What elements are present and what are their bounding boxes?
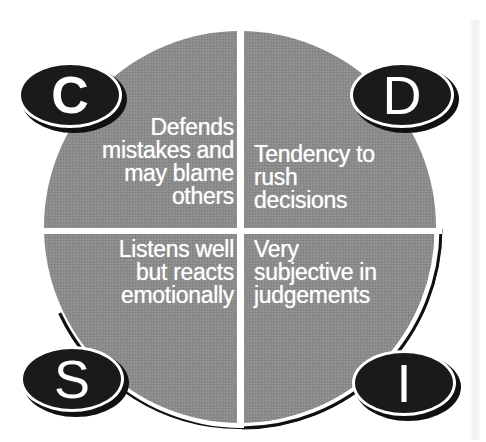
quadrant-s-text: Listens well but reacts emotionally — [119, 238, 234, 307]
badge-c: C — [18, 62, 122, 128]
quadrant-i-text: Very subjective in judgements — [254, 238, 377, 307]
badge-letter-d: D — [350, 62, 454, 128]
quadrant-d-line: decisions — [254, 189, 375, 212]
badge-letter-i: I — [352, 350, 456, 416]
quadrant-i-line: subjective in — [254, 261, 377, 284]
quadrant-d-line: rush — [254, 166, 375, 189]
quadrant-i-line: Very — [254, 238, 377, 261]
quadrant-d-text: Tendency to rush decisions — [254, 143, 375, 212]
quadrant-d-line: Tendency to — [254, 143, 375, 166]
quadrant-s-line: but reacts — [119, 261, 234, 284]
badge-s: S — [20, 346, 124, 412]
badge-i: I — [352, 350, 456, 416]
quadrant-c-line: may blame — [102, 162, 234, 185]
quadrant-c-text: Defends mistakes and may blame others — [102, 116, 234, 208]
quadrant-c-line: mistakes and — [102, 139, 234, 162]
badge-d: D — [350, 62, 454, 128]
quadrant-s-line: emotionally — [119, 284, 234, 307]
badge-letter-s: S — [20, 346, 124, 412]
horizontal-divider — [42, 228, 442, 234]
quadrant-c-line: others — [102, 185, 234, 208]
quadrant-i-line: judgements — [254, 284, 377, 307]
quadrant-s-line: Listens well — [119, 238, 234, 261]
badge-letter-c: C — [18, 62, 122, 128]
